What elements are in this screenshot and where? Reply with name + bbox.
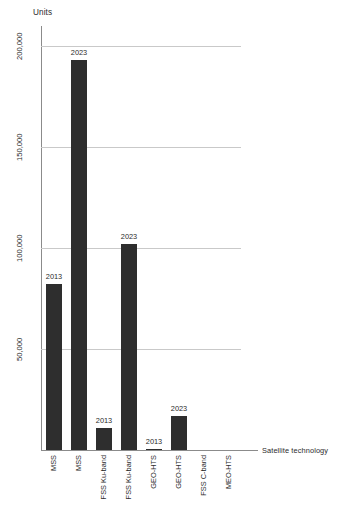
y-tick-label-200000: 200,000 — [16, 22, 24, 70]
bar-label-mss-2023: 2023 — [61, 48, 97, 57]
gridline-200000 — [41, 46, 241, 47]
x-axis-line — [41, 450, 258, 451]
bar-label-fss-ku-band-2023: 2023 — [111, 232, 147, 241]
x-tick-label-geo-hts-2: GEO-HTS — [175, 455, 182, 489]
x-tick-label-mss-2: MSS — [75, 455, 82, 471]
x-tick-label-geo-hts-1: GEO-HTS — [150, 455, 157, 489]
x-tick-label-fss-ku-1: FSS Ku-band — [100, 455, 107, 499]
bar-mss-2023[interactable] — [71, 60, 87, 450]
bar-label-geo-hts-2023: 2023 — [161, 404, 197, 413]
y-tick-label-100000: 100,000 — [16, 224, 24, 272]
y-axis-title: Units — [33, 8, 52, 17]
bar-label-geo-hts-2013: 2013 — [136, 437, 172, 446]
bar-label-fss-ku-band-2013: 2013 — [86, 416, 122, 425]
x-tick-label-meo-hts: MEO-HTS — [225, 455, 232, 489]
bar-chart: Units 200,000 150,000 100,000 50,000 201… — [0, 0, 340, 513]
y-tick-label-150000: 150,000 — [16, 123, 24, 171]
bar-fss-ku-band-2023[interactable] — [121, 244, 137, 450]
x-axis-title: Satellite technology — [262, 446, 328, 455]
bar-fss-ku-band-2013[interactable] — [96, 428, 112, 450]
bar-geo-hts-2013[interactable] — [146, 449, 162, 450]
x-tick-label-mss-1: MSS — [50, 455, 57, 471]
bar-mss-2013[interactable] — [46, 284, 62, 450]
bar-label-mss-2013: 2013 — [36, 272, 72, 281]
x-tick-label-fss-c-band: FSS C-band — [200, 455, 207, 496]
x-tick-label-fss-ku-2: FSS Ku-band — [125, 455, 132, 499]
y-tick-label-50000: 50,000 — [16, 325, 24, 373]
y-axis-line — [41, 26, 42, 451]
bar-geo-hts-2023[interactable] — [171, 416, 187, 450]
